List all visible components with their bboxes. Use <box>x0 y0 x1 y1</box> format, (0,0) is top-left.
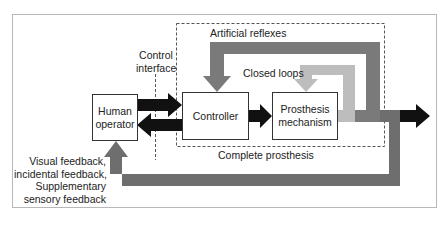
controller-label: Controller <box>193 110 239 123</box>
human-operator-block: Human operator <box>92 94 138 141</box>
feedback-label: Visual feedback, incidental feedback, Su… <box>14 155 106 205</box>
human-operator-label-line2: operator <box>95 118 134 131</box>
output-arrow <box>400 104 430 128</box>
feedback-line4: sensory feedback <box>14 193 106 206</box>
control-interface-line1: Control <box>136 49 176 62</box>
feedback-line1: Visual feedback, <box>14 155 106 168</box>
actuation-arrow <box>249 104 272 128</box>
closed-loops-label: Closed loops <box>243 67 304 80</box>
controller-block: Controller <box>182 92 249 140</box>
complete-prosthesis-label: Complete prosthesis <box>218 149 314 162</box>
feedback-line3: Supplementary <box>14 180 106 193</box>
control-interface-line2: interface <box>136 62 176 75</box>
command-arrow <box>137 93 182 117</box>
control-interface-label: Control interface <box>136 49 176 74</box>
artificial-reflexes-label: Artificial reflexes <box>210 27 286 40</box>
human-operator-label-line1: Human <box>95 105 134 118</box>
feedback-line2: incidental feedback, <box>14 168 106 181</box>
prosthesis-mechanism-block: Prosthesis mechanism <box>272 92 338 140</box>
return-arrow <box>137 113 182 137</box>
prosthesis-label-line1: Prosthesis <box>278 103 332 116</box>
prosthesis-label-line2: mechanism <box>278 116 332 129</box>
